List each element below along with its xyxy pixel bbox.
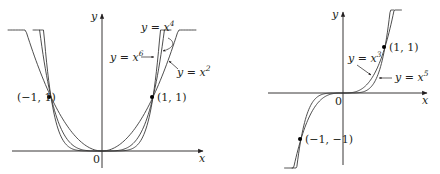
leader-x4 (163, 38, 173, 51)
x-axis-label: x (199, 152, 206, 165)
leader-x2 (169, 61, 178, 69)
point-label-1-1: (1, 1) (157, 91, 187, 104)
odd-powers-chart: x y 0 (1, 1) (−1, −1) y = x3 y = x5 (268, 8, 429, 168)
x-axis-label: x (422, 94, 429, 107)
y-axis-label: y (331, 8, 339, 21)
leader-x3 (357, 65, 371, 75)
point-neg1-neg1 (298, 137, 302, 141)
point-1-1 (382, 45, 386, 49)
label-x6: y = x6 (109, 49, 144, 64)
label-x4: y = x4 (140, 19, 175, 34)
label-x2: y = x2 (176, 64, 211, 79)
origin-label: 0 (93, 153, 100, 166)
figure: x y 0 (−1, 1) (1, 1) y = x4 y = x6 y = x… (0, 0, 440, 174)
point-label-neg1-1: (−1, 1) (17, 91, 56, 104)
point-label-1-1: (1, 1) (389, 41, 419, 54)
point-1-1 (150, 95, 154, 99)
label-x3: y = x3 (347, 50, 382, 65)
label-x5: y = x5 (394, 69, 429, 84)
origin-label: 0 (335, 95, 342, 108)
y-axis-label: y (90, 10, 98, 23)
even-powers-chart: x y 0 (−1, 1) (1, 1) y = x4 y = x6 y = x… (8, 10, 211, 168)
point-label-neg1-neg1: (−1, −1) (305, 133, 353, 146)
